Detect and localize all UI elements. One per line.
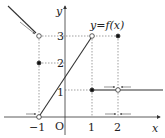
points bbox=[37, 34, 121, 120]
y-axis-label: y bbox=[55, 5, 63, 18]
open-point-1-3 bbox=[90, 34, 95, 39]
middle-branch bbox=[40, 38, 91, 115]
x-tick-1: 1 bbox=[88, 121, 95, 134]
arrow-left-branch-icon bbox=[20, 22, 35, 34]
x-tick-m1: −1 bbox=[29, 121, 45, 134]
x-axis-label: x bbox=[152, 122, 159, 135]
filled-point-1-1 bbox=[90, 88, 94, 92]
y-tick-3: 3 bbox=[57, 30, 64, 43]
function-curve bbox=[8, 6, 163, 115]
filled-point-2-3 bbox=[116, 34, 120, 38]
x-tick-2: 2 bbox=[114, 121, 121, 134]
open-point-2-1 bbox=[116, 88, 121, 93]
y-tick-1: 1 bbox=[57, 86, 64, 99]
open-point-m1-3 bbox=[37, 34, 42, 39]
left-branch bbox=[8, 6, 36, 33]
y-tick-2: 2 bbox=[57, 57, 64, 70]
function-label: y=f(x) bbox=[89, 19, 124, 32]
guide-lines bbox=[39, 36, 118, 117]
function-graph: y=f(x) y x O −1 1 2 1 2 3 bbox=[0, 0, 165, 138]
filled-point-m1-2 bbox=[37, 61, 41, 65]
open-point-m1-0 bbox=[37, 115, 42, 120]
origin-label: O bbox=[55, 120, 64, 133]
